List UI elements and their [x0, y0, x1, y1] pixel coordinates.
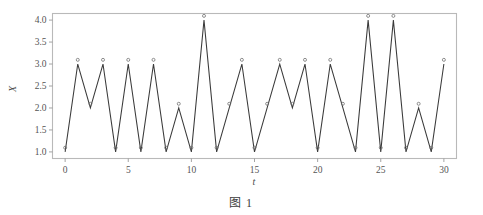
y-tick-label: 1.0	[35, 147, 47, 157]
y-tick-label: 2.5	[35, 81, 47, 91]
y-tick-label: 2.0	[35, 103, 47, 113]
figure-container: 1.01.52.02.53.03.54.0 051015202530 X t 图…	[0, 0, 483, 215]
y-tick-label: 4.0	[35, 15, 47, 25]
x-tick-label: 15	[250, 165, 260, 175]
y-axis-label: X	[7, 85, 18, 93]
x-tick-label: 20	[313, 165, 323, 175]
x-tick-label: 10	[187, 165, 197, 175]
x-tick-label: 0	[63, 165, 68, 175]
y-tick-label: 3.5	[35, 37, 47, 47]
x-tick-label: 5	[126, 165, 131, 175]
figure-caption: 图 1	[229, 196, 253, 210]
chart-plot-area: 1.01.52.02.53.03.54.0 051015202530 X t 图…	[0, 0, 483, 215]
x-axis-label: t	[253, 176, 256, 187]
chart-background	[0, 0, 483, 215]
x-tick-label: 30	[439, 165, 449, 175]
x-tick-label: 25	[376, 165, 386, 175]
y-tick-label: 1.5	[35, 125, 47, 135]
y-tick-label: 3.0	[35, 59, 47, 69]
line-chart-svg: 1.01.52.02.53.03.54.0 051015202530 X t 图…	[0, 0, 483, 215]
